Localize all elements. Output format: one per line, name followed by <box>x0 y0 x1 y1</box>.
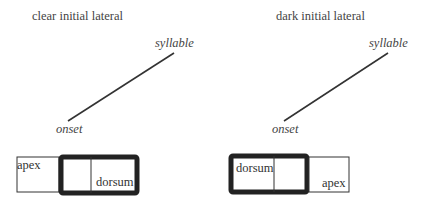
left-dorsum-label: dorsum <box>96 175 134 190</box>
left-association-line <box>68 53 174 121</box>
right-association-line <box>284 53 388 121</box>
right-apex-label: apex <box>322 176 346 191</box>
left-apex-label: apex <box>17 158 41 173</box>
right-dorsum-label: dorsum <box>236 161 274 176</box>
diagram-graphics <box>0 0 422 212</box>
